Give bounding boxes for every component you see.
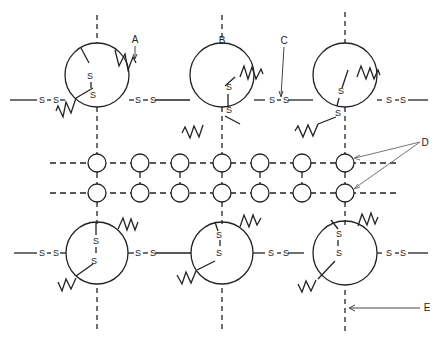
subunit-top-middle [155, 43, 281, 138]
subunit-bottom-right [288, 213, 428, 292]
svg-text:S: S [87, 71, 93, 81]
label-c: C [280, 35, 287, 46]
molecular-network-diagram: S S S S S S S S S S S S S S S S S S S S … [0, 0, 440, 337]
svg-text:S: S [226, 82, 232, 92]
svg-text:S: S [150, 95, 156, 105]
subunit-top-right [288, 43, 428, 137]
svg-text:S: S [150, 248, 156, 258]
svg-text:S: S [283, 248, 289, 258]
svg-text:S: S [386, 248, 392, 258]
svg-text:S: S [53, 95, 59, 105]
svg-text:S: S [338, 86, 344, 96]
label-d: D [421, 137, 428, 148]
label-a: A [132, 34, 139, 45]
svg-text:S: S [336, 248, 342, 258]
bead-lattice [50, 154, 400, 202]
svg-text:S: S [91, 256, 97, 266]
svg-text:S: S [135, 95, 141, 105]
svg-text:S: S [400, 95, 406, 105]
svg-text:S: S [268, 248, 274, 258]
svg-text:S: S [90, 90, 96, 100]
svg-text:S: S [269, 95, 275, 105]
label-e: E [424, 302, 431, 313]
svg-text:S: S [283, 95, 289, 105]
svg-text:S: S [216, 230, 222, 240]
callout-labels: A B C D E [132, 34, 431, 313]
svg-text:S: S [93, 236, 99, 246]
svg-text:S: S [226, 105, 232, 115]
svg-text:S: S [39, 95, 45, 105]
pointer-arrows [133, 46, 420, 311]
svg-text:S: S [53, 248, 59, 258]
svg-text:S: S [386, 95, 392, 105]
svg-text:S: S [216, 248, 222, 258]
svg-text:S: S [400, 248, 406, 258]
subunit-top-left [10, 43, 148, 117]
label-b: B [219, 35, 226, 46]
svg-text:S: S [335, 108, 341, 118]
subunit-bottom-left [14, 218, 148, 291]
svg-text:S: S [135, 248, 141, 258]
svg-text:S: S [39, 248, 45, 258]
svg-text:S: S [336, 229, 342, 239]
